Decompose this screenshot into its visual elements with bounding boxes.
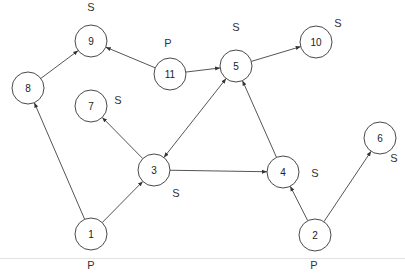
node-label: 10 (310, 37, 322, 48)
node-1: 1 (75, 218, 107, 250)
node-5: 5 (220, 50, 252, 82)
node-9-tag: S (87, 1, 94, 13)
edge-1-to-8 (34, 103, 84, 220)
edge-11-to-5 (186, 68, 220, 72)
node-tags-layer: PPSSSSSSSP (87, 1, 397, 271)
node-label: 2 (312, 230, 318, 241)
node-2: 2 (299, 219, 331, 251)
edge-3-to-4 (170, 170, 267, 172)
node-5-tag: S (232, 21, 239, 33)
node-9: 9 (75, 25, 107, 57)
edge-2-to-4 (290, 186, 308, 220)
node-label: 7 (88, 101, 94, 112)
edge-11-to-9 (106, 47, 155, 68)
node-3: 3 (138, 154, 170, 186)
node-label: 8 (25, 83, 31, 94)
nodes-layer: 1234567891011 (12, 25, 396, 251)
edge-2-to-6 (324, 151, 371, 221)
edge-8-to-9 (41, 51, 78, 79)
node-label: 4 (280, 167, 286, 178)
node-label: 9 (88, 36, 94, 47)
node-label: 3 (151, 165, 157, 176)
node-7: 7 (75, 90, 107, 122)
edge-5-to-10 (251, 47, 300, 62)
node-7-tag: S (114, 94, 121, 106)
node-10-tag: S (334, 17, 341, 29)
node-label: 1 (88, 229, 94, 240)
edge-1-to-3 (102, 181, 143, 222)
node-1-tag: P (87, 259, 94, 271)
node-6: 6 (364, 122, 396, 154)
edge-3-to-7 (102, 117, 143, 158)
directed-graph: 1234567891011 PPSSSSSSSP (0, 0, 405, 276)
node-11-tag: P (164, 37, 171, 49)
node-label: 11 (165, 69, 176, 80)
node-4: 4 (267, 156, 299, 188)
node-label: 5 (233, 61, 239, 72)
node-11: 11 (154, 58, 186, 90)
node-2-tag: P (310, 259, 317, 271)
node-10: 10 (300, 26, 332, 58)
node-8: 8 (12, 72, 44, 104)
edges-layer (34, 47, 371, 223)
node-4-tag: S (311, 167, 318, 179)
node-6-tag: S (390, 152, 397, 164)
edge-4-to-5 (242, 81, 276, 158)
node-3-tag: S (172, 187, 179, 199)
node-label: 6 (377, 133, 383, 144)
edge-5-to-3 (164, 79, 226, 158)
